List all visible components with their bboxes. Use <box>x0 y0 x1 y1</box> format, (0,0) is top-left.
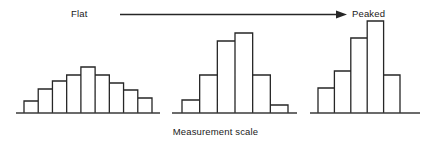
label-peaked: Peaked <box>352 8 385 19</box>
histogram-panel-flat <box>16 67 160 113</box>
label-flat: Flat <box>71 8 87 19</box>
histogram-outline-flat <box>24 67 152 113</box>
histogram-panel-intermediate <box>172 33 297 113</box>
histogram-panel-peaked <box>310 21 420 113</box>
histogram-outline-intermediate <box>182 33 288 113</box>
arrow-head-icon <box>336 11 347 19</box>
transition-arrow <box>120 11 347 19</box>
axis-label-measurement-scale: Measurement scale <box>0 126 431 137</box>
histogram-outline-peaked <box>318 21 400 113</box>
distribution-shape-figure: Flat Peaked Measurement scale <box>0 0 431 148</box>
